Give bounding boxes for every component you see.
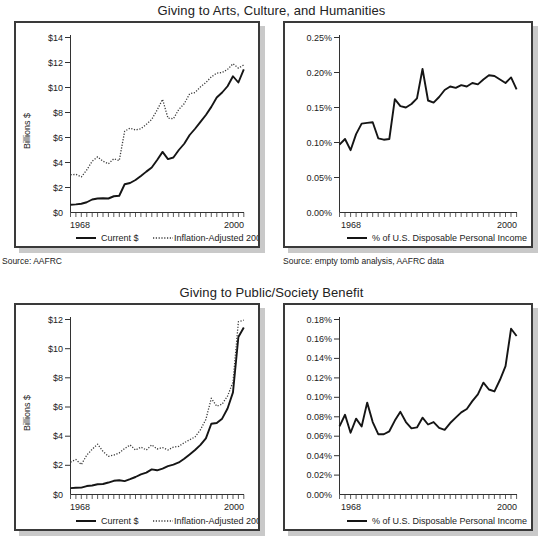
svg-text:$2: $2 [53,460,63,470]
figure-root: Giving to Arts, Culture, and Humanities … [0,0,543,543]
chart-public-dollars: Billions $ $12 $10 $8 $6 $4 $2 $0 1968 2… [16,305,258,529]
series-line-inflation-adjusted [71,320,244,464]
legend-public-percent: % of U.S. Disposable Personal Income [347,516,527,526]
y-ticks-public-percent: 0.18% 0.16% 0.14% 0.12% 0.10% 0.08% 0.06… [306,315,339,500]
svg-text:$10: $10 [48,344,63,354]
y-axis-label-group: Billions $ [22,113,32,149]
chart-public-percent: 0.18% 0.16% 0.14% 0.12% 0.10% 0.08% 0.06… [285,305,531,529]
x-tick-end-arts-percent: 2000 [497,220,517,230]
svg-text:$8: $8 [53,373,63,383]
svg-text:0.18%: 0.18% [306,315,332,325]
y-ticks-arts-dollars: $14 $12 $10 $8 $6 $4 $2 $0 [48,33,70,218]
x-tick-start-arts-percent: 1968 [341,220,361,230]
svg-text:0.08%: 0.08% [306,412,332,422]
series-line-current-dollars [71,69,244,204]
chart-arts-percent: 0.25% 0.20% 0.15% 0.10% 0.05% 0.00% 1968… [285,23,531,246]
svg-text:0.00%: 0.00% [306,208,332,218]
panel-arts-dollars: Billions $ $14 $12 $10 $8 $6 $4 $2 $0 19… [14,21,260,248]
svg-text:0.05%: 0.05% [306,173,332,183]
x-tick-start-public-percent: 1968 [341,502,361,512]
x-tick-end-public-percent: 2000 [497,502,517,512]
legend-label-inflation: Inflation-Adjusted 2001 $ [174,516,258,526]
svg-text:0.16%: 0.16% [306,334,332,344]
svg-text:$10: $10 [48,83,63,93]
y-ticks-arts-percent: 0.25% 0.20% 0.15% 0.10% 0.05% 0.00% [306,33,339,218]
x-tick-marks [71,495,244,500]
page-title-public: Giving to Public/Society Benefit [0,285,543,300]
svg-text:$0: $0 [53,490,63,500]
x-tick-marks [71,213,244,218]
legend-arts-dollars: Current $ Inflation-Adjusted 2001 $ [76,233,258,243]
svg-text:$2: $2 [53,183,63,193]
svg-text:$6: $6 [53,133,63,143]
svg-text:$12: $12 [48,315,63,325]
series-line-pct-dpi [340,69,517,150]
svg-text:0.12%: 0.12% [306,373,332,383]
source-arts-percent: Source: empty tomb analysis, AAFRC data [283,256,444,266]
page-title-arts: Giving to Arts, Culture, and Humanities [0,3,543,18]
svg-text:0.06%: 0.06% [306,431,332,441]
svg-text:0.25%: 0.25% [306,33,332,43]
legend-arts-percent: % of U.S. Disposable Personal Income [347,233,527,243]
legend-label-inflation: Inflation-Adjusted 2001 $ [174,233,258,243]
svg-text:$4: $4 [53,431,63,441]
legend-label-pct-dpi: % of U.S. Disposable Personal Income [372,516,527,526]
x-tick-end-public-dollars: 2000 [224,502,244,512]
svg-text:0.15%: 0.15% [306,103,332,113]
svg-text:0.14%: 0.14% [306,353,332,363]
x-tick-start-arts-dollars: 1968 [70,220,90,230]
svg-text:0.02%: 0.02% [306,470,332,480]
svg-text:0.04%: 0.04% [306,451,332,461]
legend-label-current: Current $ [101,516,139,526]
legend-public-dollars: Current $ Inflation-Adjusted 2001 $ [76,516,258,526]
svg-text:$14: $14 [48,33,63,43]
panel-public-percent: 0.18% 0.16% 0.14% 0.12% 0.10% 0.08% 0.06… [283,303,533,531]
svg-text:0.00%: 0.00% [306,490,332,500]
y-ticks-public-dollars: $12 $10 $8 $6 $4 $2 $0 [48,315,70,500]
series-line-current-dollars [71,328,244,489]
x-tick-marks [340,495,517,500]
legend-label-pct-dpi: % of U.S. Disposable Personal Income [372,233,527,243]
svg-text:$6: $6 [53,402,63,412]
panel-public-dollars: Billions $ $12 $10 $8 $6 $4 $2 $0 1968 2… [14,303,260,531]
x-tick-end-arts-dollars: 2000 [224,220,244,230]
svg-text:$4: $4 [53,158,63,168]
svg-text:0.20%: 0.20% [306,68,332,78]
panel-arts-percent: 0.25% 0.20% 0.15% 0.10% 0.05% 0.00% 1968… [283,21,533,248]
chart-arts-dollars: Billions $ $14 $12 $10 $8 $6 $4 $2 $0 19… [16,23,258,246]
series-line-pct-dpi [340,329,517,434]
x-tick-start-public-dollars: 1968 [70,502,90,512]
y-axis-title-public-dollars: Billions $ [22,395,32,431]
legend-label-current: Current $ [101,233,139,243]
svg-text:$12: $12 [48,58,63,68]
y-axis-label-group: Billions $ [22,395,32,431]
svg-text:0.10%: 0.10% [306,138,332,148]
svg-text:$0: $0 [53,208,63,218]
svg-text:$8: $8 [53,108,63,118]
svg-text:0.10%: 0.10% [306,392,332,402]
x-tick-marks [340,213,517,218]
source-arts-dollars: Source: AAFRC [2,256,62,266]
y-axis-title-arts-dollars: Billions $ [22,113,32,149]
